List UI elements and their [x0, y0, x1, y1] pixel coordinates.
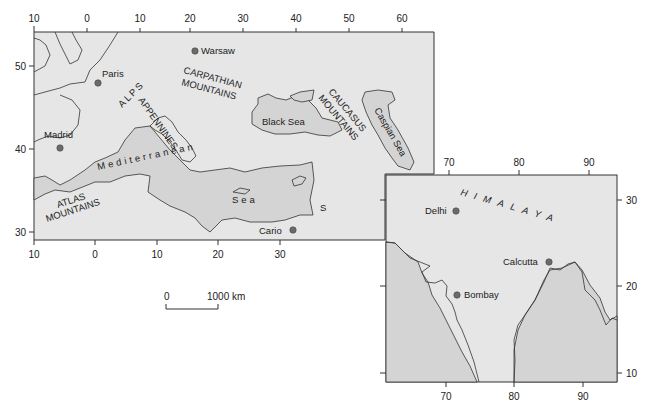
- tick-label: 90: [577, 391, 589, 402]
- left-axis: 50 40 30: [15, 61, 34, 238]
- bottom-axis: 10 0 10 20 30: [28, 240, 286, 260]
- label-black-sea: Black Sea: [262, 116, 305, 127]
- tick-label: 10: [151, 249, 163, 260]
- top-axis: 10 0 10 20 30 40 50 60: [28, 13, 408, 32]
- label-s: S: [320, 202, 326, 213]
- city-label-delhi: Delhi: [425, 205, 447, 216]
- map-figure: 10 0 10 20 30 40 50 60 50 40 30 10 0: [0, 0, 658, 414]
- tick-label: 80: [513, 157, 525, 168]
- tick-label: 30: [15, 227, 27, 238]
- city-label-calcutta: Calcutta: [503, 256, 539, 267]
- city-marker-bombay: [454, 292, 460, 298]
- tick-label: 10: [626, 368, 638, 379]
- tick-label: 10: [28, 249, 40, 260]
- tick-label: 20: [626, 281, 638, 292]
- city-marker-madrid: [57, 145, 63, 151]
- india-bottom-axis: 70 80 90: [440, 382, 589, 402]
- tick-label: 30: [626, 195, 638, 206]
- tick-label: 10: [28, 13, 40, 24]
- tick-label: 70: [440, 391, 452, 402]
- india-right-axis: 30 20 10: [617, 195, 638, 379]
- tick-label: 10: [134, 13, 146, 24]
- india-top-axis: 70 80 90: [443, 157, 595, 175]
- city-marker-cairo: [290, 227, 296, 233]
- india-map: 70 80 90 70 80 90 30 20 10 Delhi: [380, 157, 638, 402]
- city-marker-delhi: [453, 208, 459, 214]
- tick-label: 20: [212, 249, 224, 260]
- city-marker-calcutta: [546, 259, 552, 265]
- city-label-paris: Paris: [102, 68, 124, 79]
- city-label-cairo: Cario: [259, 225, 282, 236]
- tick-label: 40: [15, 144, 27, 155]
- tick-label: 90: [583, 157, 595, 168]
- scale-end-label: 1000 km: [207, 291, 245, 302]
- label-mediterranean-sea: Sea: [232, 194, 258, 205]
- scale-start-label: 0: [164, 291, 170, 302]
- europe-map: 10 0 10 20 30 40 50 60 50 40 30 10 0: [15, 13, 434, 260]
- tick-label: 0: [92, 249, 98, 260]
- tick-label: 60: [396, 13, 408, 24]
- city-label-bombay: Bombay: [464, 289, 499, 300]
- tick-label: 40: [290, 13, 302, 24]
- scale-bar: 0 1000 km: [164, 291, 245, 309]
- tick-label: 30: [274, 249, 286, 260]
- tick-label: 80: [508, 391, 520, 402]
- city-label-warsaw: Warsaw: [201, 45, 235, 56]
- tick-label: 30: [237, 13, 249, 24]
- tick-label: 70: [443, 157, 455, 168]
- city-label-madrid: Madrid: [44, 129, 73, 140]
- tick-label: 50: [343, 13, 355, 24]
- city-marker-warsaw: [192, 48, 198, 54]
- tick-label: 20: [184, 13, 196, 24]
- tick-label: 50: [15, 61, 27, 72]
- city-marker-paris: [95, 80, 101, 86]
- tick-label: 0: [84, 13, 90, 24]
